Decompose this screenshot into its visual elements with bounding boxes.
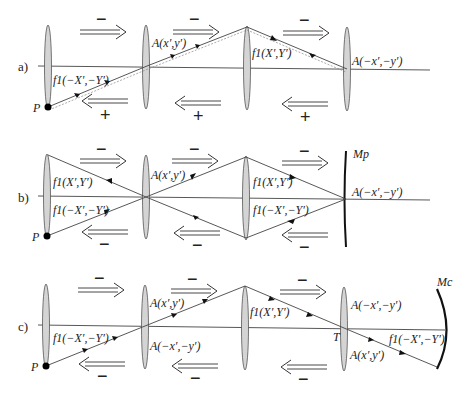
panel-label-c: c)	[18, 319, 28, 334]
panel-a: a) P f1(−X′,−Y′) A(x′,y′) f1(X′,Y′) A(−x…	[18, 9, 430, 127]
source-label: P	[31, 230, 40, 244]
sign: +	[300, 107, 311, 127]
mirror-label: Mp	[352, 147, 369, 161]
point-T-label: T	[333, 330, 341, 344]
label-lens4-top: A(−x′,−y′)	[350, 298, 401, 312]
label-lens4-bottom: A(x′,y′)	[349, 348, 384, 362]
sign: −	[96, 139, 107, 159]
sign: −	[99, 234, 110, 254]
sign: +	[193, 106, 204, 126]
label-mirror-point: A(−x′,−y′)	[351, 185, 402, 199]
curved-mirror	[437, 289, 447, 369]
sign: −	[299, 237, 310, 257]
label-mirror-side: f1(−X′,−Y′)	[389, 332, 445, 346]
sign: −	[189, 139, 200, 159]
label-lens3-bottom: f1(−X′,−Y′)	[253, 203, 309, 217]
source-label: P	[32, 101, 41, 115]
lens-3	[243, 156, 250, 240]
source-point-icon	[43, 363, 50, 370]
label-lens1-top: f1(X′,Y′)	[53, 175, 93, 189]
label-lens1: f1(−X′,−Y′)	[53, 73, 109, 87]
label-lens4: A(−x′,−y′)	[351, 54, 402, 68]
sign: −	[187, 269, 198, 289]
sign: −	[298, 369, 309, 389]
sign: −	[190, 368, 201, 388]
label-lens2-top: A(x′,y′)	[149, 296, 184, 310]
label-lens3-top: f1(X′,Y′)	[253, 175, 293, 189]
sign: −	[96, 9, 107, 29]
panel-label-b: b)	[18, 190, 29, 205]
panel-label-a: a)	[18, 59, 28, 74]
label-lens1-bottom: f1(−X′,−Y′)	[53, 203, 109, 217]
label-lens2: A(x′,y′)	[150, 168, 185, 182]
sign: −	[299, 141, 310, 161]
label-lens2-bottom: A(−x′,−y′)	[149, 339, 200, 353]
label-lens3: f1(X′,Y′)	[250, 305, 290, 319]
sign: −	[94, 268, 105, 288]
panel-c: c) P f1(−X′,−Y′) A(x′,y′) A(−x′,−y′) f1(…	[18, 268, 453, 389]
source-point-icon	[44, 233, 51, 240]
lens-1	[43, 284, 50, 368]
lens-3	[242, 286, 249, 370]
label-lens2: A(x′,y′)	[151, 36, 186, 50]
sign: −	[189, 9, 200, 29]
source-label: P	[30, 360, 39, 374]
lens-3	[244, 26, 251, 110]
panel-b: b) P f1(X′,Y′) f1(−X′,−Y′) A(x′,y′) f1(X…	[18, 139, 430, 257]
lens-1	[44, 154, 51, 238]
source-point-icon	[45, 104, 52, 111]
optical-diagram: a) P f1(−X′,−Y′) A(x′,y′) f1(X′,Y′) A(−x…	[0, 0, 469, 394]
sign: −	[192, 235, 203, 255]
label-lens3: f1(X′,Y′)	[252, 46, 292, 60]
sign: −	[297, 270, 308, 290]
mirror-label: Mc	[436, 275, 453, 289]
sign: +	[100, 105, 111, 125]
sign: −	[97, 366, 108, 386]
lens-1	[45, 25, 52, 109]
label-lens1: f1(−X′,−Y′)	[53, 331, 109, 345]
sign: −	[299, 10, 310, 30]
